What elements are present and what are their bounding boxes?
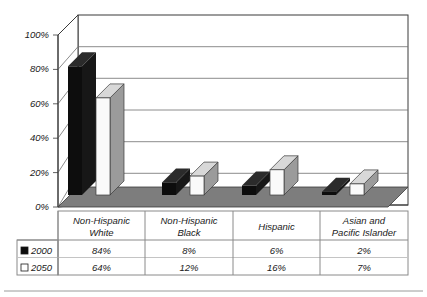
legend-label-2050: 2050 [30,262,53,273]
bar-2000-non-hispanic-white [68,52,96,195]
legend-swatch-2000 [21,247,28,254]
table-header-row: Non-Hispanic White Non-Hispanic Black Hi… [73,215,397,238]
cell-2000-asian-pacific: 2% [356,245,371,256]
chart-figure: 100% 80% 60% 40% 20% 0% Non [0,0,427,297]
y-tick-label-0: 0% [35,201,49,212]
cell-2000-non-hispanic-white: 84% [92,245,112,256]
grouped-3d-bar-chart: 100% 80% 60% 40% 20% 0% Non [0,0,427,297]
y-tick-label-80: 80% [30,63,50,74]
cell-2000-hispanic: 6% [270,245,284,256]
plot-area: 100% 80% 60% 40% 20% 0% [25,15,408,212]
y-tick-label-100: 100% [25,29,50,40]
cell-2050-non-hispanic-white: 64% [92,262,112,273]
category-label-1-line1: Non-Hispanic [160,215,217,226]
data-table: Non-Hispanic White Non-Hispanic Black Hi… [17,211,408,275]
cell-2000-non-hispanic-black: 8% [182,245,196,256]
table-row: 2000 84% 8% 6% 2% [21,245,371,256]
table-row: 2050 64% 12% 16% 7% [21,262,371,273]
bar-2050-non-hispanic-white [96,84,124,195]
y-tick-label-40: 40% [30,132,50,143]
legend-label-2000: 2000 [30,245,53,256]
category-label-0-line1: Non-Hispanic [73,215,130,226]
y-axis-tick-labels: 100% 80% 60% 40% 20% 0% [25,29,50,212]
category-label-3-line2: Pacific Islander [332,227,397,238]
y-tick-label-20: 20% [29,167,50,178]
category-label-0-line2: White [89,227,113,238]
category-label-1-line2: Black [177,227,201,238]
y-axis-ticks [53,35,58,207]
cell-2050-asian-pacific: 7% [357,262,371,273]
category-label-3-line1: Asian and [342,215,386,226]
y-tick-label-60: 60% [30,98,50,109]
cell-2050-non-hispanic-black: 12% [179,262,199,273]
legend-swatch-2050 [21,264,28,271]
category-label-2-line1: Hispanic [258,221,295,232]
cell-2050-hispanic: 16% [267,262,287,273]
